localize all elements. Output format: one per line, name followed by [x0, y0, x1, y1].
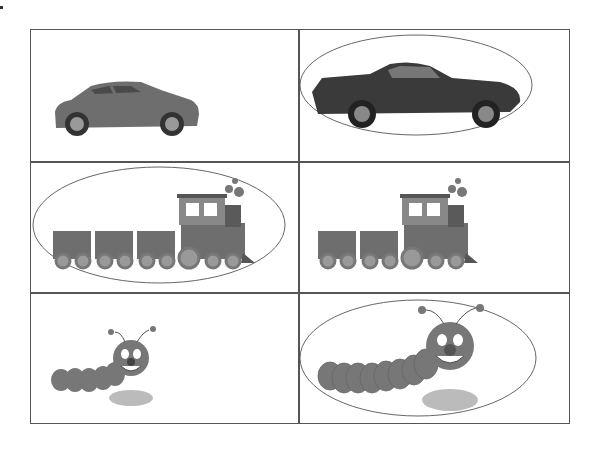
- large-caterpillar-icon: [300, 294, 570, 424]
- small-caterpillar-icon: [31, 294, 298, 424]
- bullet-mark: [0, 6, 3, 9]
- cell-large-caterpillar[interactable]: [300, 294, 570, 424]
- cell-train-three-cars[interactable]: [31, 163, 298, 292]
- cell-small-caterpillar[interactable]: [31, 294, 298, 424]
- train-three-cars-icon: [31, 163, 298, 292]
- cell-train-two-cars[interactable]: [300, 163, 570, 292]
- muscle-car-icon: [300, 30, 570, 161]
- train-two-cars-icon: [300, 163, 570, 292]
- cell-hatchback-car[interactable]: [31, 30, 298, 161]
- cell-muscle-car[interactable]: [300, 30, 570, 161]
- hatchback-car-icon: [31, 30, 298, 161]
